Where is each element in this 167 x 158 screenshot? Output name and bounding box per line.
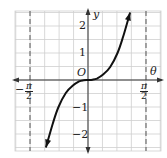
- y-tick-neg2: −2: [72, 129, 88, 140]
- x-axis-label: θ: [150, 66, 157, 77]
- y-tick-1: 1: [79, 47, 86, 58]
- y-axis-label: y: [93, 9, 99, 20]
- x-tick-pi-over-2: π 2: [140, 82, 148, 101]
- neg-sign: −: [15, 84, 24, 95]
- origin-label: O: [77, 67, 86, 78]
- y-tick-neg1: −1: [72, 102, 88, 113]
- y-tick-2: 2: [79, 20, 86, 31]
- x-tick-neg-pi-over-2: π 2: [25, 82, 33, 101]
